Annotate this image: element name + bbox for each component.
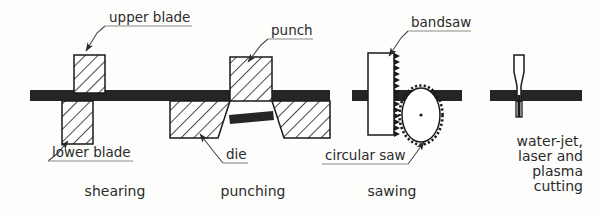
panel-punching: punch die punching [170,22,330,199]
label-bandsaw: bandsaw [411,14,471,30]
caption-beam-line-2: laser and [518,148,583,164]
circular-saw-center-dot [419,113,422,116]
punching-workpiece-right [272,90,330,101]
label-lower-blade: lower blade [52,144,131,160]
caption-punching: punching [221,183,286,199]
punching-workpiece-left [170,90,230,101]
panel-shearing: upper blade lower blade shearing [30,9,192,199]
punch-part [230,57,272,101]
die-left-part [170,101,230,138]
caption-beam-line-4: cutting [534,178,583,194]
label-die: die [226,146,247,162]
label-upper-blade: upper blade [109,9,190,25]
label-circular-saw: circular saw [325,147,406,163]
cutting-processes-diagram: upper blade lower blade shearing punch d… [0,0,600,216]
cutting-beam-icon [518,95,521,117]
upper-blade-part [74,55,105,93]
panel-sawing: bandsaw circular saw sawing [322,14,471,199]
lower-blade-part [62,101,93,144]
caption-beam-line-3: plasma [532,163,583,179]
label-punch: punch [271,22,313,38]
caption-beam-line-1: water-jet, [517,133,584,149]
bandsaw-leader [389,31,408,56]
bandsaw-part [368,53,394,135]
beam-workpiece [490,90,582,101]
circular-saw-leader [408,142,424,164]
caption-sawing: sawing [368,183,417,199]
upper-blade-leader [86,26,105,51]
caption-shearing: shearing [85,183,146,199]
panel-beam-cutting: water-jet, laser and plasma cutting [490,55,583,194]
punched-slug [229,111,274,124]
die-right-part [272,101,330,138]
figure-root: upper blade lower blade shearing punch d… [0,0,600,216]
